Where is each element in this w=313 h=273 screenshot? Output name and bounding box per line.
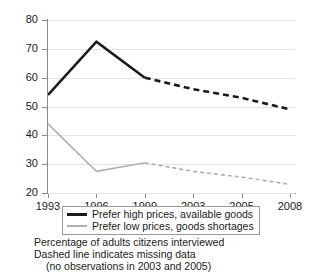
caption-line-2: Dashed line indicates missing data bbox=[34, 248, 304, 260]
y-tick-50 bbox=[42, 107, 47, 108]
chart-figure: 20304050607080 199319961999200320052008 … bbox=[0, 0, 313, 273]
y-tick-30 bbox=[42, 164, 47, 165]
y-tick-label-40: 40 bbox=[14, 129, 38, 140]
legend-swatch-solid-dark-icon bbox=[67, 213, 87, 216]
series-high-prices-dashed bbox=[145, 78, 290, 110]
legend-item-low-prices[interactable]: Prefer low prices, goods shortages bbox=[67, 220, 254, 232]
y-tick-70 bbox=[42, 49, 47, 50]
x-tick-label-2008: 2008 bbox=[270, 200, 310, 212]
series-low-prices-solid bbox=[48, 124, 145, 172]
y-tick-label-50: 50 bbox=[14, 101, 38, 112]
legend-label-high-prices: Prefer high prices, available goods bbox=[92, 208, 253, 220]
gridline-20 bbox=[48, 193, 295, 194]
series-lines bbox=[48, 20, 295, 193]
y-tick-label-20: 20 bbox=[14, 187, 38, 198]
y-tick-20 bbox=[42, 193, 47, 194]
y-tick-40 bbox=[42, 135, 47, 136]
caption-line-3: (no observations in 2003 and 2005) bbox=[34, 260, 304, 272]
series-low-prices-dashed bbox=[145, 163, 290, 185]
y-tick-80 bbox=[42, 20, 47, 21]
y-tick-60 bbox=[42, 78, 47, 79]
legend-swatch-solid-gray-icon bbox=[67, 225, 87, 227]
y-tick-label-80: 80 bbox=[14, 14, 38, 25]
legend-item-high-prices[interactable]: Prefer high prices, available goods bbox=[67, 208, 254, 220]
chart-caption: Percentage of adults citizens interviewe… bbox=[34, 236, 304, 273]
plot-area bbox=[48, 20, 295, 193]
series-high-prices-solid bbox=[48, 42, 145, 95]
caption-line-1: Percentage of adults citizens interviewe… bbox=[34, 236, 304, 248]
chart-legend: Prefer high prices, available goods Pref… bbox=[62, 206, 260, 235]
y-tick-label-60: 60 bbox=[14, 72, 38, 83]
legend-label-low-prices: Prefer low prices, goods shortages bbox=[92, 220, 254, 232]
y-tick-label-30: 30 bbox=[14, 158, 38, 169]
y-tick-label-70: 70 bbox=[14, 43, 38, 54]
